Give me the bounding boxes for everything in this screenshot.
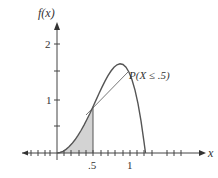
x-axis-label: x — [207, 146, 214, 160]
y-axis-arrow-icon — [54, 22, 60, 30]
probability-annotation: P(X ≤ .5) — [128, 69, 170, 82]
y-axis-label: f(x) — [38, 6, 55, 20]
pdf-chart: f(x) 2 1 .5 1 x P(X ≤ .5) — [0, 0, 218, 178]
x-axis-arrow-right-icon — [199, 150, 206, 156]
x-tick-label-half: .5 — [88, 159, 97, 171]
y-tick-label-2: 2 — [45, 38, 51, 50]
y-tick-label-1: 1 — [46, 94, 52, 106]
x-axis-arrow-left-icon — [22, 151, 28, 156]
x-tick-label-1: 1 — [127, 159, 133, 171]
